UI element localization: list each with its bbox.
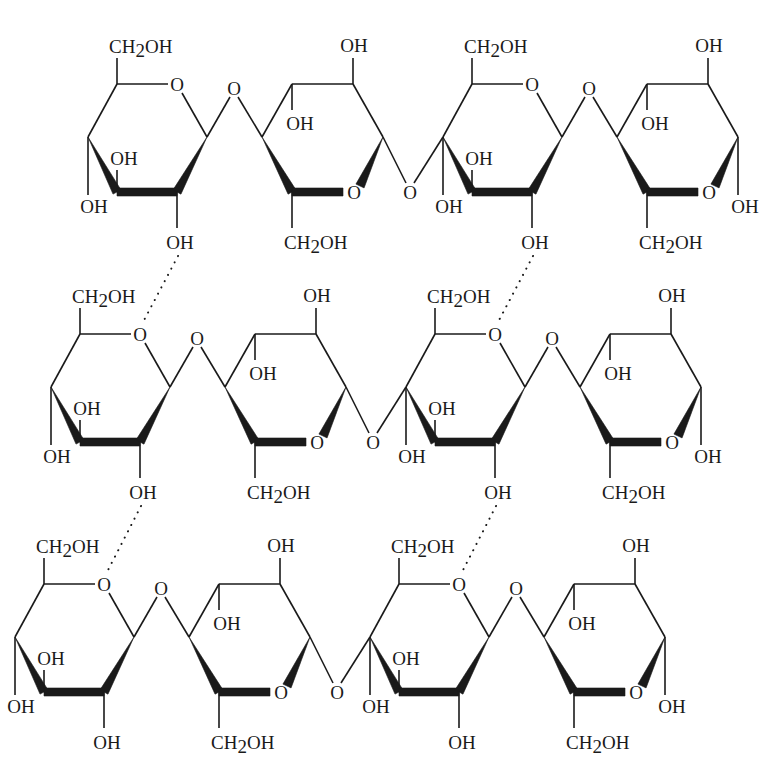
bond-line <box>671 334 701 387</box>
wedge-bond <box>44 688 104 696</box>
bond-line <box>370 584 399 637</box>
bond-line <box>182 93 207 137</box>
ch2oh-label: CH2OH <box>211 732 275 757</box>
bond-line <box>134 597 157 637</box>
ch2oh-label: CH2OH <box>284 232 348 257</box>
bond-line <box>310 637 333 683</box>
wedge-bond <box>356 137 383 188</box>
bond-line <box>414 137 443 183</box>
hydroxyl-label: OH <box>392 648 420 669</box>
bond-line <box>537 93 562 137</box>
glycosidic-oxygen-label: O <box>582 78 596 99</box>
ch2oh-label: CH2OH <box>72 286 136 311</box>
wedge-bond <box>136 387 170 444</box>
glycosidic-oxygen-label: O <box>190 328 204 349</box>
bond-line <box>708 84 738 137</box>
ch2oh-label: CH2OH <box>464 36 528 61</box>
bond-line <box>280 584 310 637</box>
cellulose-structure-diagram: OCH2OHOHOHOHOOHOHOCH2OHOOCH2OHOHOHOHOOHO… <box>0 0 783 773</box>
bond-line <box>377 387 406 433</box>
bond-line <box>346 387 369 433</box>
wedge-bond <box>435 438 495 446</box>
bond-line <box>51 334 80 387</box>
hydroxyl-label: OH <box>286 113 314 134</box>
wedge-bond <box>574 688 625 696</box>
bond-line <box>556 347 580 387</box>
glycosidic-oxygen-label: O <box>403 182 417 203</box>
hydroxyl-label: OH <box>73 398 101 419</box>
hydroxyl-label: OH <box>129 482 157 503</box>
hydroxyl-label: OH <box>267 535 295 556</box>
bond-line <box>353 84 383 137</box>
hydroxyl-label: OH <box>658 285 686 306</box>
wedge-bond <box>610 438 661 446</box>
ring-oxygen-label: O <box>133 324 147 345</box>
ring-oxygen-label: O <box>452 574 466 595</box>
bond-line <box>593 97 617 137</box>
hydrogen-bond-dotted <box>142 256 178 324</box>
ch2oh-label: CH2OH <box>109 36 173 61</box>
hydroxyl-label: OH <box>484 482 512 503</box>
hydroxyl-label: OH <box>340 35 368 56</box>
hydroxyl-label: OH <box>428 398 456 419</box>
hydroxyl-label: OH <box>604 363 632 384</box>
ch2oh-label: CH2OH <box>247 482 311 507</box>
wedge-bond <box>283 637 310 688</box>
bond-line <box>165 597 189 637</box>
wedge-bond <box>638 637 665 688</box>
hydroxyl-label: OH <box>80 196 108 217</box>
wedge-bond <box>399 688 459 696</box>
hydrogen-bond-dotted <box>461 506 496 574</box>
bond-line <box>145 343 170 387</box>
bond-line <box>170 347 193 387</box>
bond-line <box>316 334 346 387</box>
bond-line <box>443 84 472 137</box>
bond-line <box>341 637 370 683</box>
glycosidic-oxygen-label: O <box>330 682 344 703</box>
wedge-bond <box>491 387 525 444</box>
hydroxyl-label: OH <box>465 148 493 169</box>
glycosidic-oxygen-label: O <box>509 578 523 599</box>
hydroxyl-label: OH <box>448 732 476 753</box>
ring-oxygen-label: O <box>525 74 539 95</box>
ch2oh-label: CH2OH <box>639 232 703 257</box>
ch2oh-label: CH2OH <box>36 536 100 561</box>
bond-line <box>88 84 117 137</box>
hydroxyl-label: OH <box>303 285 331 306</box>
bond-line <box>489 597 512 637</box>
hydroxyl-label: OH <box>641 113 669 134</box>
wedge-bond <box>219 688 270 696</box>
bond-line <box>500 343 525 387</box>
hydroxyl-label: OH <box>694 446 722 467</box>
hydroxyl-label: OH <box>521 232 549 253</box>
hydroxyl-label: OH <box>93 732 121 753</box>
hydroxyl-label: OH <box>731 196 759 217</box>
hydroxyl-label: OH <box>568 613 596 634</box>
glycosidic-oxygen-label: O <box>545 328 559 349</box>
wedge-bond <box>189 637 223 694</box>
bond-line <box>525 347 548 387</box>
glycosidic-oxygen-label: O <box>227 78 241 99</box>
wedge-bond <box>528 137 562 194</box>
hydrogen-bond-dotted <box>497 256 533 324</box>
wedge-bond <box>100 637 134 694</box>
bond-line <box>207 97 230 137</box>
bond-line <box>520 597 544 637</box>
wedge-bond <box>225 387 259 444</box>
hydroxyl-label: OH <box>658 696 686 717</box>
hydrogen-bond-dotted <box>106 506 141 574</box>
hydroxyl-label: OH <box>43 446 71 467</box>
hydroxyl-label: OH <box>166 232 194 253</box>
hydroxyl-label: OH <box>37 648 65 669</box>
wedge-bond <box>292 188 343 196</box>
bond-line <box>635 584 665 637</box>
wedge-bond <box>617 137 651 194</box>
ch2oh-label: CH2OH <box>602 482 666 507</box>
ring-oxygen-label: O <box>97 574 111 595</box>
hydroxyl-label: OH <box>695 35 723 56</box>
hydroxyl-label: OH <box>622 535 650 556</box>
wedge-bond <box>647 188 698 196</box>
bond-line <box>238 97 262 137</box>
cellulose-chain-row-3: OCH2OHOHOHOHOOHOHOCH2OHOOCH2OHOHOHOHOOHO… <box>7 535 686 757</box>
wedge-bond <box>711 137 738 188</box>
